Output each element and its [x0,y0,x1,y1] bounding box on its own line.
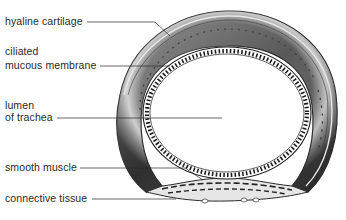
label-ciliated: ciliated [5,46,38,57]
leader-hyaline-cartilage [87,22,170,36]
label-mucous-membrane: mucous membrane [5,60,96,71]
label-lumen: lumen [5,100,34,111]
trachea-cross-section [0,0,346,220]
ciliated-mucous-membrane-layer [143,47,311,179]
label-smooth-muscle: smooth muscle [5,162,77,173]
label-hyaline-cartilage: hyaline cartilage [5,16,83,27]
label-of-trachea: of trachea [5,112,53,123]
label-connective-tissue: connective tissue [5,193,87,204]
